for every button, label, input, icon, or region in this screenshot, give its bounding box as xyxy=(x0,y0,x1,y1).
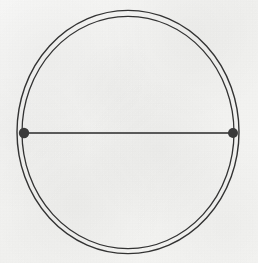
left-endpoint-dot xyxy=(19,128,29,138)
right-endpoint-dot xyxy=(228,128,238,138)
geometric-figure-canvas xyxy=(0,0,258,263)
figure-page xyxy=(0,0,258,263)
circle-outline-outer-stroke xyxy=(17,10,239,253)
